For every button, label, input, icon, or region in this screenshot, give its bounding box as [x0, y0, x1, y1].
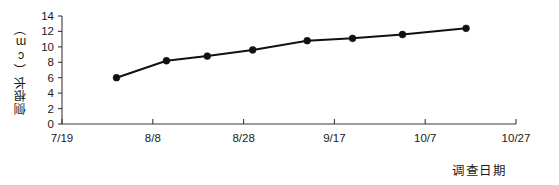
x-axis-title: 调查日期	[452, 160, 506, 179]
data-point	[249, 47, 256, 54]
y-axis-tick-marks	[58, 16, 62, 124]
y-tick-label: 12	[41, 25, 54, 37]
data-point	[399, 31, 406, 38]
data-point	[304, 37, 311, 44]
y-tick-label: 6	[48, 72, 54, 84]
y-tick-label: 0	[48, 118, 54, 130]
y-tick-label: 8	[48, 56, 54, 68]
x-tick-label: 10/27	[502, 132, 531, 144]
y-tick-label: 2	[48, 103, 54, 115]
x-axis-tick-marks	[62, 119, 516, 124]
y-axis-tick-labels: 14 12 10 8 6 4 2 0	[41, 10, 54, 130]
chart-figure: 侧根长（cm） 14 12 10 8 6 4 2 0	[0, 0, 559, 185]
x-axis-tick-labels: 7/19 8/8 8/28 9/17 10/7 10/27	[51, 132, 531, 144]
x-tick-label: 8/28	[232, 132, 254, 144]
data-point	[113, 74, 120, 81]
data-point	[463, 25, 470, 32]
data-point	[204, 53, 211, 60]
y-tick-label: 4	[48, 87, 55, 99]
data-point	[349, 35, 356, 42]
x-tick-label: 7/19	[51, 132, 73, 144]
x-tick-label: 10/7	[414, 132, 436, 144]
y-tick-label: 14	[41, 10, 54, 22]
data-point	[163, 57, 170, 64]
y-tick-label: 10	[41, 41, 54, 53]
x-tick-label: 9/17	[323, 132, 345, 144]
series-line-lateral-root-length	[116, 28, 466, 77]
x-tick-label: 8/8	[145, 132, 161, 144]
chart-plot-svg: 14 12 10 8 6 4 2 0	[0, 0, 559, 185]
